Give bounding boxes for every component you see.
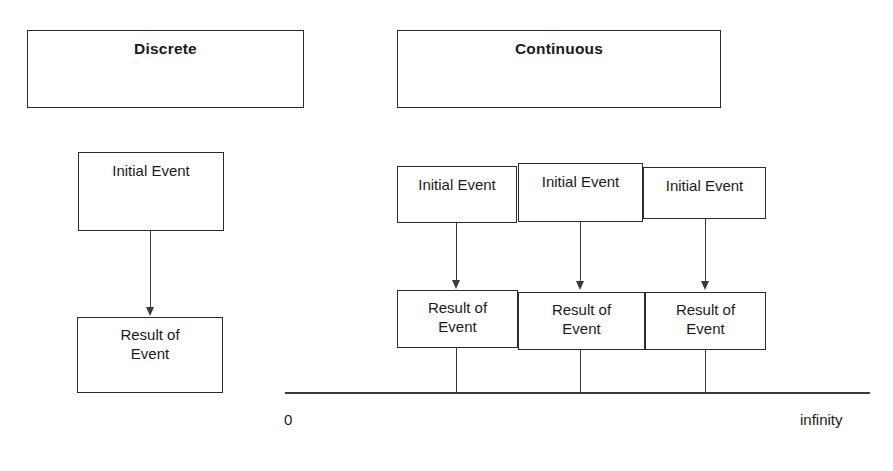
discrete-result-event-box: Result of Event xyxy=(77,317,223,393)
timeline-tick-2 xyxy=(580,350,581,393)
continuous-result-event-label-1-line2: Event xyxy=(438,318,476,335)
discrete-arrowhead-icon xyxy=(146,307,154,316)
continuous-result-event-label-3-line2: Event xyxy=(686,320,724,337)
continuous-result-event-label-2-line2: Event xyxy=(562,320,600,337)
continuous-result-event-label-3-line1: Result of xyxy=(676,301,735,318)
continuous-arrowhead-icon-1 xyxy=(452,280,460,289)
continuous-initial-event-box-2: Initial Event xyxy=(518,163,643,222)
continuous-initial-event-box-1: Initial Event xyxy=(397,166,517,223)
continuous-initial-event-label-3: Initial Event xyxy=(666,176,744,195)
continuous-result-event-label-2-line1: Result of xyxy=(552,301,611,318)
discrete-result-event-label-line2: Event xyxy=(131,345,169,362)
discrete-result-event-label-line1: Result of xyxy=(120,326,179,343)
continuous-arrow-line-3 xyxy=(705,219,706,283)
timeline-start-label: 0 xyxy=(284,411,292,428)
timeline-tick-3 xyxy=(705,350,706,393)
continuous-arrow-line-1 xyxy=(456,223,457,282)
discrete-arrow-line xyxy=(150,231,151,309)
continuous-arrowhead-icon-2 xyxy=(576,281,584,290)
title-box-discrete: Discrete xyxy=(27,30,304,108)
continuous-initial-event-label-1: Initial Event xyxy=(418,175,496,194)
timeline-end-label: infinity xyxy=(800,411,843,428)
continuous-initial-event-box-3: Initial Event xyxy=(643,167,766,219)
continuous-arrowhead-icon-3 xyxy=(701,281,709,290)
timeline-axis xyxy=(285,392,870,394)
continuous-initial-event-label-2: Initial Event xyxy=(542,172,620,191)
timeline-end-label-text: infinity xyxy=(800,411,843,428)
title-box-continuous: Continuous xyxy=(397,30,721,108)
continuous-result-event-box-3: Result of Event xyxy=(645,292,766,350)
continuous-result-event-label-1-line1: Result of xyxy=(428,299,487,316)
continuous-result-event-box-2: Result of Event xyxy=(518,292,645,350)
timeline-tick-1 xyxy=(456,348,457,393)
diagram-canvas: Discrete Continuous Initial Event Result… xyxy=(0,0,893,471)
title-label-continuous: Continuous xyxy=(515,40,603,58)
continuous-result-event-box-1: Result of Event xyxy=(397,290,518,348)
timeline-start-label-text: 0 xyxy=(284,411,292,428)
title-label-discrete: Discrete xyxy=(134,40,197,58)
discrete-initial-event-box: Initial Event xyxy=(78,152,224,231)
discrete-initial-event-label: Initial Event xyxy=(112,161,190,180)
continuous-arrow-line-2 xyxy=(580,222,581,283)
